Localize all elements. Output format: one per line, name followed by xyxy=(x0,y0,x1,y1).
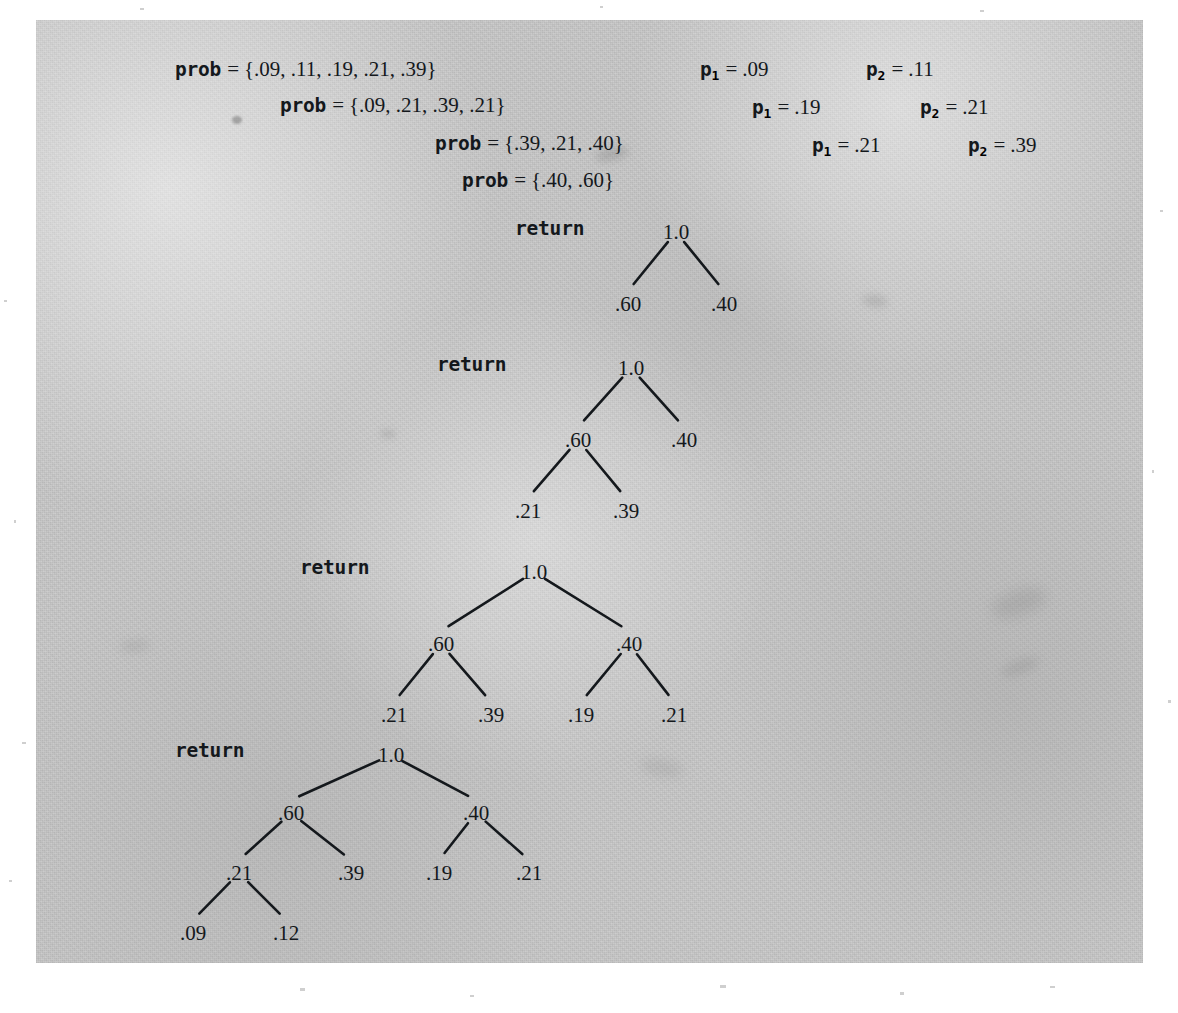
prob-variable-name: prob xyxy=(435,132,481,155)
tree-edge xyxy=(486,822,523,854)
tree-edge xyxy=(400,654,433,695)
scan-speck xyxy=(9,880,12,882)
prob-variable-name: prob xyxy=(175,58,221,81)
scan-smudge xyxy=(861,294,888,308)
prob-variable-name: prob xyxy=(280,94,326,117)
prob-variable-name: prob xyxy=(462,169,508,192)
scan-speck xyxy=(1160,210,1163,212)
scan-smudge xyxy=(232,116,242,124)
tree-edge xyxy=(587,654,621,695)
equals-sign: = xyxy=(993,133,1005,158)
tree-edge xyxy=(445,823,468,853)
tree-edge xyxy=(299,760,379,796)
p1-assignment: p1=.09 xyxy=(700,57,768,82)
scan-speck xyxy=(720,985,726,988)
huffman-tree: 1.0.60.40.21.39 xyxy=(440,341,770,531)
tree-edge xyxy=(634,242,668,284)
huffman-tree: 1.0.60.40.21.39.19.21 xyxy=(300,545,720,735)
scan-speck xyxy=(1050,986,1055,988)
tree-node-label: .40 xyxy=(616,632,642,656)
scan-speck xyxy=(4,300,7,302)
scanned-page-panel: prob={.09, .11, .19, .21, .39}prob={.09,… xyxy=(36,20,1143,963)
tree-node-label: .40 xyxy=(711,292,737,316)
scan-speck xyxy=(22,742,26,744)
tree-node-label: 1.0 xyxy=(521,560,547,584)
equals-sign: = xyxy=(487,131,499,156)
prob-value-set: {.39, .21, .40} xyxy=(504,131,624,156)
p2-value: .21 xyxy=(962,95,988,120)
tree-node-label: .60 xyxy=(428,632,454,656)
prob-assignment-line: prob={.09, .11, .19, .21, .39} xyxy=(175,57,437,82)
p1-variable-name: p xyxy=(752,96,764,119)
scan-smudge xyxy=(987,582,1050,625)
tree-node-label: .60 xyxy=(278,801,304,825)
p2-value: .39 xyxy=(1010,133,1036,158)
tree-edge xyxy=(199,882,230,913)
tree-node-label: .39 xyxy=(338,861,364,885)
p2-subscript: 2 xyxy=(878,68,886,83)
tree-edge xyxy=(246,822,282,854)
tree-node-label: .21 xyxy=(515,499,541,523)
p1-value: .09 xyxy=(742,57,768,82)
p1-variable-name: p xyxy=(700,58,712,81)
huffman-tree: 1.0.60.40.21.39.19.21.09.12 xyxy=(175,728,595,963)
scan-speck xyxy=(980,10,984,12)
equals-sign: = xyxy=(945,95,957,120)
tree-edge xyxy=(449,654,485,695)
p1-assignment: p1=.21 xyxy=(812,133,880,158)
tree-edge xyxy=(584,378,622,421)
equals-sign: = xyxy=(837,133,849,158)
prob-value-set: {.40, .60} xyxy=(531,168,614,193)
equals-sign: = xyxy=(891,57,903,82)
scan-smudge xyxy=(380,430,396,438)
tree-edge xyxy=(684,242,718,284)
scan-smudge xyxy=(999,654,1041,681)
tree-node-label: 1.0 xyxy=(378,743,404,767)
huffman-tree: 1.0.60.40 xyxy=(520,205,840,325)
prob-assignment-line: prob={.39, .21, .40} xyxy=(435,131,624,156)
equals-sign: = xyxy=(514,168,526,193)
p2-variable-name: p xyxy=(866,58,878,81)
tree-node-label: .21 xyxy=(381,703,407,727)
equals-sign: = xyxy=(777,95,789,120)
tree-node-label: .60 xyxy=(615,292,641,316)
tree-edge xyxy=(534,450,570,491)
p1-subscript: 1 xyxy=(824,144,832,159)
scan-speck xyxy=(600,6,603,8)
p2-subscript: 2 xyxy=(980,144,988,159)
equals-sign: = xyxy=(227,57,239,82)
equals-sign: = xyxy=(332,93,344,118)
prob-assignment-line: prob={.09, .21, .39, .21} xyxy=(280,93,506,118)
tree-node-label: .21 xyxy=(226,861,252,885)
prob-value-set: {.09, .21, .39, .21} xyxy=(349,93,506,118)
tree-node-label: .39 xyxy=(613,499,639,523)
p2-value: .11 xyxy=(908,57,933,82)
p1-variable-name: p xyxy=(812,134,824,157)
scan-speck xyxy=(1152,470,1154,473)
tree-edge xyxy=(248,882,279,913)
p2-variable-name: p xyxy=(968,134,980,157)
p1-assignment: p1=.19 xyxy=(752,95,820,120)
tree-node-label: .09 xyxy=(180,921,206,945)
scan-speck xyxy=(14,520,16,523)
tree-node-label: .40 xyxy=(463,801,489,825)
p1-value: .19 xyxy=(794,95,820,120)
tree-node-label: .12 xyxy=(273,921,299,945)
scan-smudge xyxy=(639,756,685,779)
tree-node-label: .40 xyxy=(671,428,697,452)
tree-edge xyxy=(637,654,669,695)
prob-assignment-line: prob={.40, .60} xyxy=(462,168,614,193)
tree-node-label: .21 xyxy=(661,703,687,727)
scan-speck xyxy=(300,988,305,991)
tree-node-label: 1.0 xyxy=(618,356,644,380)
tree-edge xyxy=(449,579,523,626)
tree-edge xyxy=(545,579,621,626)
p2-variable-name: p xyxy=(920,96,932,119)
tree-edge xyxy=(301,821,344,854)
p1-subscript: 1 xyxy=(712,68,720,83)
p2-subscript: 2 xyxy=(932,106,940,121)
tree-edge xyxy=(640,378,678,421)
scan-speck xyxy=(470,995,474,997)
tree-node-label: .21 xyxy=(516,861,542,885)
tree-node-label: .19 xyxy=(568,703,594,727)
